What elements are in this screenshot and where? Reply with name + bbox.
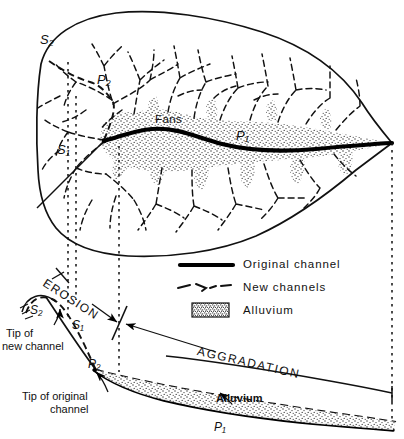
erosion-aggradation-divider (112, 306, 127, 340)
profile-label-alluvium: Alluvium (216, 392, 262, 404)
tip-original-channel-label-line1: Tip of original (22, 390, 88, 402)
profile-label-p1: P₁ (214, 420, 226, 434)
geomorphology-figure (0, 0, 404, 439)
legend-label-alluvium: Alluvium (243, 304, 294, 316)
legend-label-new-channels: New channels (243, 281, 326, 293)
plan-view-basin (37, 12, 392, 257)
tip-original-channel-label-line2: channel (50, 403, 89, 415)
legend-symbols (178, 265, 233, 317)
profile-label-p2: P₂ (88, 357, 101, 371)
plan-label-fans: Fans (155, 113, 182, 125)
legend-label-original-channel: Original channel (243, 258, 341, 270)
legend-new-channel-symbol (178, 284, 231, 291)
tip-new-channel-label-line1: Tip of (6, 327, 33, 339)
p2-junction-point (102, 139, 107, 144)
legend-alluvium-symbol (192, 303, 229, 317)
plan-label-p2: P₂ (97, 72, 111, 87)
profile-label-s1: S₁ (72, 318, 84, 332)
profile-label-s2: S₂ (30, 303, 43, 317)
plan-label-p1: P₁ (236, 128, 249, 143)
plan-label-s1: S₁ (57, 142, 70, 157)
plan-label-s2: S₂ (40, 32, 54, 47)
tip-new-channel-label-line2: new channel (2, 340, 64, 352)
